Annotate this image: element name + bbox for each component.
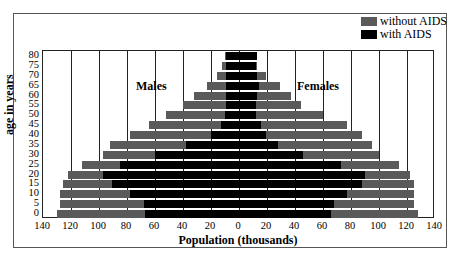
y-tick-label: 0: [19, 208, 39, 218]
bar-females-with-aids: [239, 92, 257, 100]
legend-swatch-with-aids: [361, 30, 377, 39]
x-tick-label: 140: [27, 220, 57, 231]
x-tick-label: 60: [139, 220, 169, 231]
bar-males-with-aids: [221, 121, 239, 129]
x-tick-label: 120: [55, 220, 85, 231]
bar-females-with-aids: [239, 101, 256, 109]
bar-males-with-aids: [145, 210, 239, 218]
x-tick-label: 40: [167, 220, 197, 231]
x-tick-label: 20: [251, 220, 281, 231]
bar-males-with-aids: [120, 161, 239, 169]
bar-females-with-aids: [239, 190, 347, 198]
bar-males-with-aids: [211, 131, 239, 139]
bar-females-with-aids: [239, 210, 331, 218]
y-tick-label: 10: [19, 188, 39, 198]
legend-item-with-aids: with AIDS: [361, 28, 447, 41]
y-tick-label: 35: [19, 139, 39, 149]
x-tick-label: 100: [363, 220, 393, 231]
bar-females-with-aids: [239, 111, 256, 119]
bar-males-with-aids: [155, 151, 239, 159]
y-tick-label: 65: [19, 80, 39, 90]
bar-females-with-aids: [239, 121, 261, 129]
bar-females-with-aids: [239, 151, 303, 159]
x-tick-label: 60: [307, 220, 337, 231]
bar-females-with-aids: [239, 72, 257, 80]
legend-swatch-without-aids: [361, 17, 377, 26]
bar-males-with-aids: [186, 141, 239, 149]
bar-males-with-aids: [226, 101, 239, 109]
bar-males-with-aids: [144, 200, 239, 208]
males-label: Males: [136, 79, 167, 94]
y-tick-label: 70: [19, 70, 39, 80]
bar-males-with-aids: [226, 52, 239, 60]
y-tick-label: 40: [19, 129, 39, 139]
bar-males-with-aids: [103, 171, 239, 179]
bar-females-with-aids: [239, 131, 266, 139]
y-tick-label: 75: [19, 60, 39, 70]
bar-females-with-aids: [239, 52, 257, 60]
legend-label: with AIDS: [380, 28, 432, 41]
plot-area: [42, 50, 434, 218]
x-tick-label: 0: [223, 220, 253, 231]
y-tick-label: 80: [19, 50, 39, 60]
legend: without AIDS with AIDS: [361, 15, 447, 41]
bar-males-with-aids: [226, 72, 239, 80]
bar-females-with-aids: [239, 161, 341, 169]
bar-males-with-aids: [225, 111, 239, 119]
x-tick-label: 100: [83, 220, 113, 231]
x-tick-label: 120: [391, 220, 421, 231]
bar-males-with-aids: [226, 82, 239, 90]
bar-females-with-aids: [239, 141, 278, 149]
bar-males-with-aids: [130, 190, 239, 198]
bar-females-with-aids: [239, 200, 334, 208]
x-axis-label: Population (thousands): [0, 233, 456, 248]
bar-females-with-aids: [239, 62, 256, 70]
bar-females-with-aids: [239, 82, 259, 90]
x-tick-label: 20: [195, 220, 225, 231]
x-tick-label: 140: [419, 220, 449, 231]
y-tick-label: 25: [19, 159, 39, 169]
bar-females-with-aids: [239, 171, 365, 179]
y-tick-label: 5: [19, 198, 39, 208]
bar-males-with-aids: [226, 92, 239, 100]
y-tick-label: 55: [19, 99, 39, 109]
y-tick-label: 45: [19, 119, 39, 129]
x-tick-label: 40: [279, 220, 309, 231]
x-tick-label: 80: [335, 220, 365, 231]
females-label: Females: [297, 79, 339, 94]
bar-females-with-aids: [239, 180, 362, 188]
bar-males-with-aids: [112, 180, 239, 188]
bar-males-with-aids: [226, 62, 239, 70]
y-tick-label: 15: [19, 178, 39, 188]
y-axis-label: age in years: [2, 74, 17, 135]
x-tick-label: 80: [111, 220, 141, 231]
y-tick-label: 50: [19, 109, 39, 119]
y-tick-label: 60: [19, 90, 39, 100]
y-tick-label: 30: [19, 149, 39, 159]
y-tick-label: 20: [19, 169, 39, 179]
